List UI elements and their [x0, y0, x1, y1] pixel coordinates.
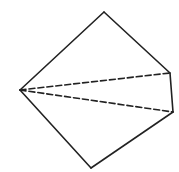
hidden-edge-left-right_upper [20, 73, 170, 90]
hidden-edge-left-right_lower [20, 90, 173, 112]
edge-top-right_upper [104, 12, 170, 73]
edge-left-top [20, 12, 104, 90]
edge-bottom-left [20, 90, 91, 168]
edge-right_lower-bottom [91, 112, 173, 168]
edge-right_upper-right_lower [170, 73, 173, 112]
geometric-diagram [0, 0, 179, 172]
